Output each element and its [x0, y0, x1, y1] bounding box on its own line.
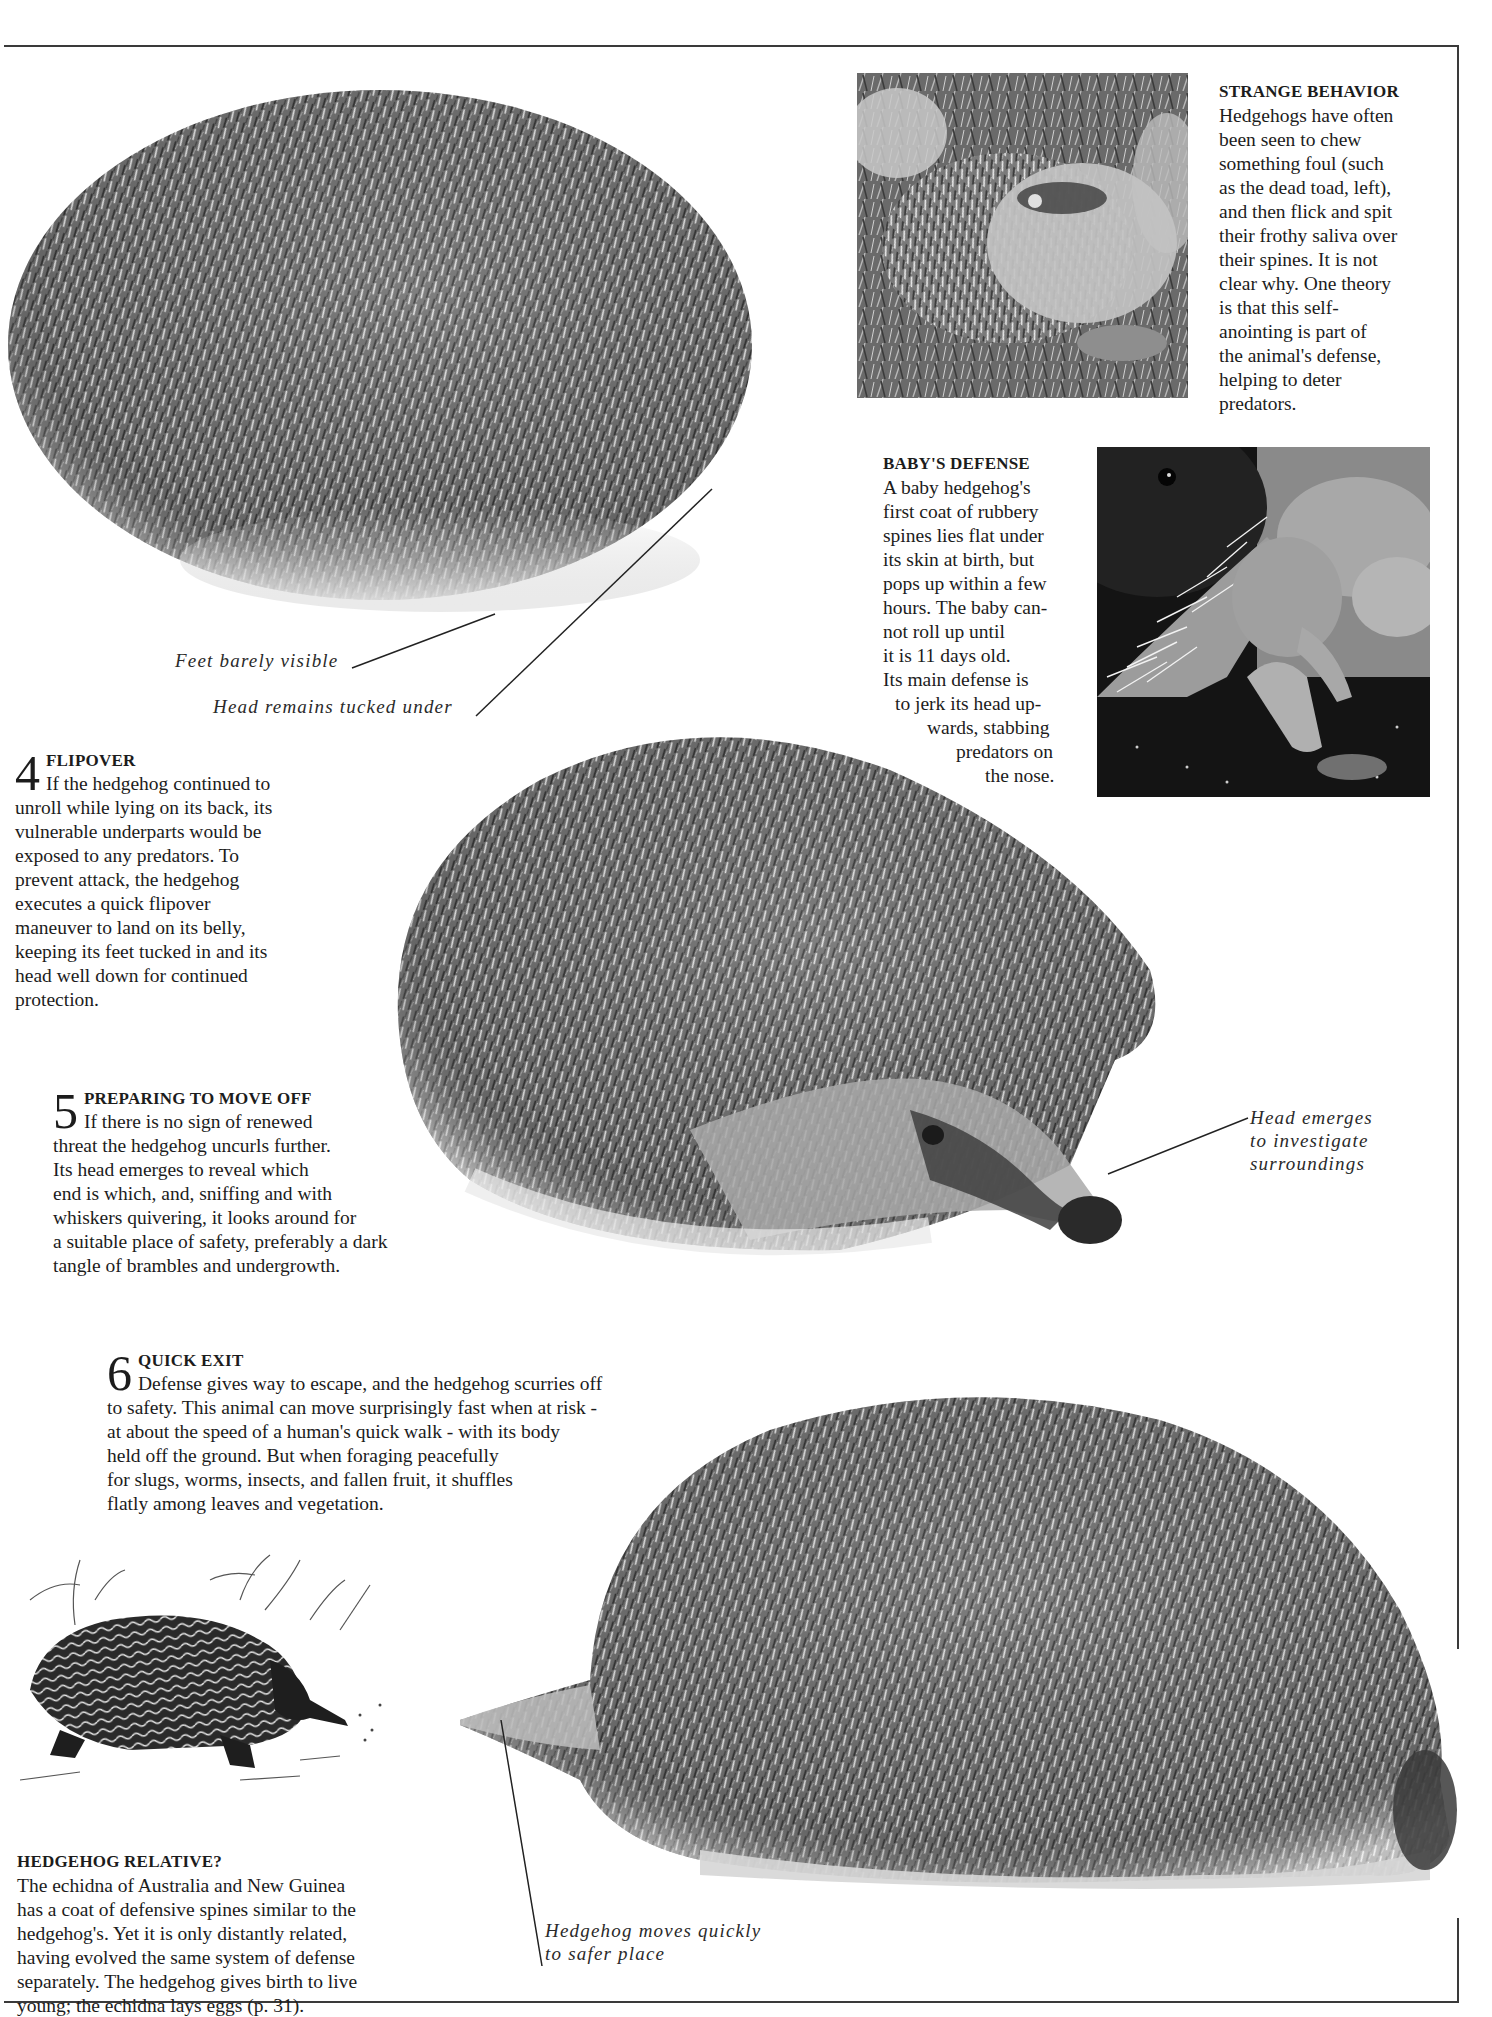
head-emerges-label: Head emerges to investigate surroundings: [1250, 1106, 1373, 1175]
leader-line-moves-quickly: [490, 1718, 550, 1978]
moves-quickly-label: Hedgehog moves quickly to safer place: [545, 1919, 761, 1965]
step-4-flipover: 4 FLIPOVER If the hedgehog continued to …: [15, 750, 335, 1012]
running-hedgehog-image: [440, 1380, 1460, 1920]
strange-behavior-heading: STRANGE BEHAVIOR: [1219, 80, 1459, 104]
step-number: 5: [53, 1092, 78, 1130]
step-5-preparing: 5 PREPARING TO MOVE OFF If there is no s…: [53, 1088, 473, 1278]
hedgehog-relative-heading: HEDGEHOG RELATIVE?: [17, 1850, 457, 1874]
leader-line-head-emerges: [1105, 1110, 1255, 1180]
babys-defense-heading: BABY'S DEFENSE: [883, 452, 1088, 476]
leader-lines-top: [0, 0, 760, 740]
uncurling-hedgehog-image: [370, 710, 1170, 1280]
step-heading: FLIPOVER: [15, 750, 335, 772]
self-anointing-photo: [857, 73, 1188, 398]
step-number: 4: [15, 754, 40, 792]
hedgehog-relative-caption: HEDGEHOG RELATIVE? The echidna of Austra…: [17, 1850, 457, 2017]
step-heading: PREPARING TO MOVE OFF: [53, 1088, 473, 1110]
strange-behavior-caption: STRANGE BEHAVIOR Hedgehogs have often be…: [1219, 80, 1459, 416]
strange-behavior-text: Hedgehogs have often been seen to chew s…: [1219, 104, 1459, 416]
step-number: 6: [107, 1354, 132, 1392]
echidna-illustration: [0, 1540, 420, 1790]
step-heading: QUICK EXIT: [107, 1350, 727, 1372]
right-rule-lower: [1457, 1918, 1459, 2003]
